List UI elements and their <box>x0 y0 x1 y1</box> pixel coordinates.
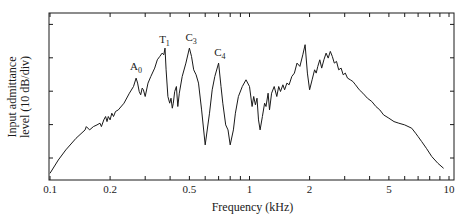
admittance-curve <box>50 45 444 174</box>
peak-label: A0 <box>130 60 142 75</box>
admittance-chart: 0.10.20.512510 A0T1C3C4 <box>0 0 475 222</box>
y-axis-label-line2: level (10 dB/div) <box>19 56 32 138</box>
x-axis-label: Frequency (kHz) <box>0 200 475 215</box>
x-tick-label: 0.1 <box>43 183 57 195</box>
data-series <box>50 45 444 174</box>
y-axis-ticks <box>49 24 454 158</box>
x-tick-label: 5 <box>386 183 392 195</box>
x-tick-label: 0.2 <box>103 183 117 195</box>
x-axis-tick-labels: 0.10.20.512510 <box>43 183 455 195</box>
x-tick-label: 1 <box>247 183 253 195</box>
x-axis-ticks <box>50 13 449 180</box>
peak-label: C3 <box>186 31 197 46</box>
plot-border <box>49 13 454 180</box>
plot-frame <box>49 13 454 180</box>
x-tick-label: 2 <box>307 183 313 195</box>
x-tick-label: 10 <box>444 183 456 195</box>
peak-annotations: A0T1C3C4 <box>130 31 225 74</box>
y-axis-label: Input admittance level (10 dB/div) <box>0 13 38 180</box>
peak-label: T1 <box>159 33 170 48</box>
peak-label: C4 <box>214 46 225 61</box>
x-tick-label: 0.5 <box>183 183 197 195</box>
